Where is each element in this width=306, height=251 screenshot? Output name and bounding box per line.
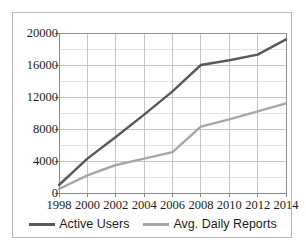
- legend-swatch-icon: [143, 223, 169, 226]
- x-tick-label: 2014: [274, 199, 299, 212]
- legend-item-1[interactable]: Active Users: [29, 217, 129, 231]
- chart-legend: Active UsersAvg. Daily Reports: [13, 217, 293, 231]
- legend-swatch-icon: [29, 223, 55, 226]
- chart-frame: 040008000120001600020000 199820002002200…: [12, 12, 292, 238]
- x-tick-label: 2012: [245, 199, 270, 212]
- x-tick-label: 2002: [103, 199, 128, 212]
- legend-item-2[interactable]: Avg. Daily Reports: [143, 217, 276, 231]
- x-axis: 199820002002200420062008201020122014: [13, 13, 293, 239]
- x-tick-label: 2008: [188, 199, 213, 212]
- x-tick-label: 1998: [47, 199, 72, 212]
- x-tick-label: 2000: [75, 199, 100, 212]
- x-tick-label: 2006: [160, 199, 185, 212]
- x-tick-label: 2010: [217, 199, 242, 212]
- x-tick-label: 2004: [132, 199, 157, 212]
- legend-label: Avg. Daily Reports: [173, 217, 276, 231]
- legend-label: Active Users: [59, 217, 129, 231]
